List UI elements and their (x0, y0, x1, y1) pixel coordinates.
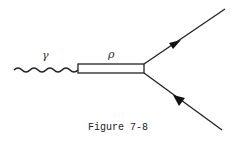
arrow-outgoing-icon (169, 40, 181, 49)
rho-propagator-box (78, 64, 144, 73)
feynman-diagram (0, 0, 236, 142)
outgoing-fermion-line (144, 9, 225, 64)
rho-label: ρ (108, 48, 114, 61)
arrow-incoming-icon (173, 95, 185, 106)
figure-caption: Figure 7-8 (0, 122, 236, 133)
photon-wavy-line (14, 68, 78, 72)
photon-label: γ (42, 49, 49, 62)
